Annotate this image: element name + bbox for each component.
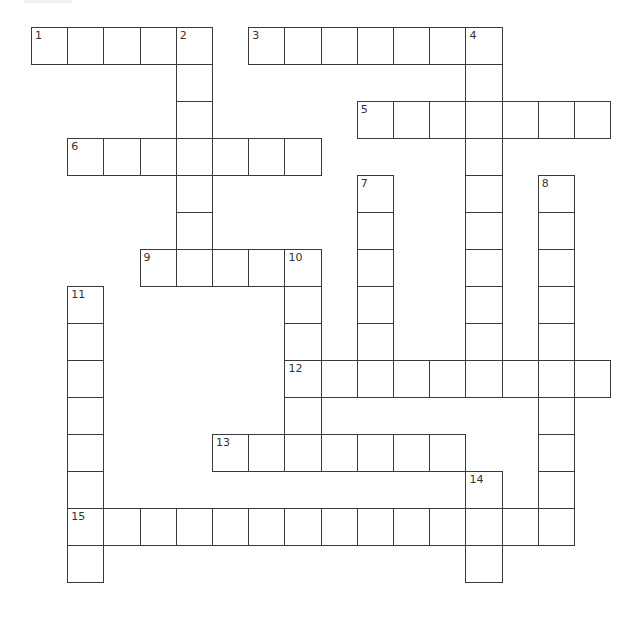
crossword-cell[interactable] [393, 101, 430, 139]
crossword-cell[interactable] [284, 508, 321, 546]
crossword-cell[interactable] [538, 471, 575, 509]
clue-number: 4 [469, 30, 476, 42]
crossword-cell[interactable] [357, 286, 394, 324]
crossword-cell[interactable]: 6 [67, 138, 104, 176]
crossword-cell[interactable] [465, 249, 502, 287]
crossword-cell[interactable] [538, 508, 575, 546]
crossword-cell[interactable]: 7 [357, 175, 394, 213]
clue-number: 14 [469, 474, 483, 486]
crossword-cell[interactable] [284, 138, 321, 176]
crossword-cell[interactable] [465, 101, 502, 139]
crossword-cell[interactable] [176, 101, 213, 139]
crossword-cell[interactable] [212, 249, 249, 287]
crossword-cell[interactable] [502, 360, 539, 398]
crossword-cell[interactable] [284, 397, 321, 435]
crossword-cell[interactable]: 8 [538, 175, 575, 213]
crossword-cell[interactable] [67, 323, 104, 361]
crossword-cell[interactable] [538, 434, 575, 472]
crossword-cell[interactable] [465, 360, 502, 398]
crossword-cell[interactable] [538, 101, 575, 139]
crossword-cell[interactable] [176, 138, 213, 176]
crossword-cell[interactable] [357, 249, 394, 287]
crossword-cell[interactable] [248, 434, 285, 472]
crossword-cell[interactable] [67, 471, 104, 509]
crossword-cell[interactable] [465, 175, 502, 213]
crossword-cell[interactable] [67, 545, 104, 583]
crossword-cell[interactable] [248, 138, 285, 176]
crossword-cell[interactable] [176, 212, 213, 250]
crossword-cell[interactable] [538, 397, 575, 435]
crossword-cell[interactable] [538, 323, 575, 361]
crossword-cell[interactable] [465, 286, 502, 324]
crossword-cell[interactable] [248, 249, 285, 287]
crossword-cell[interactable] [284, 286, 321, 324]
crossword-cell[interactable] [538, 286, 575, 324]
crossword-cell[interactable] [357, 434, 394, 472]
crossword-cell[interactable] [357, 508, 394, 546]
crossword-cell[interactable] [321, 360, 358, 398]
crossword-cell[interactable]: 3 [248, 27, 285, 65]
crossword-cell[interactable] [176, 175, 213, 213]
crossword-cell[interactable] [248, 508, 285, 546]
crossword-cell[interactable] [393, 360, 430, 398]
crossword-cell[interactable] [502, 101, 539, 139]
crossword-cell[interactable] [574, 360, 611, 398]
crossword-cell[interactable]: 2 [176, 27, 213, 65]
crossword-cell[interactable] [393, 434, 430, 472]
crossword-cell[interactable] [465, 323, 502, 361]
crossword-cell[interactable]: 4 [465, 27, 502, 65]
crossword-cell[interactable] [103, 138, 140, 176]
crossword-cell[interactable] [321, 508, 358, 546]
crossword-cell[interactable]: 1 [31, 27, 68, 65]
crossword-cell[interactable] [465, 545, 502, 583]
crossword-board: 123456789101211151314 [0, 0, 644, 618]
crossword-cell[interactable] [357, 212, 394, 250]
crossword-cell[interactable] [538, 360, 575, 398]
crossword-cell[interactable] [465, 64, 502, 102]
crossword-cell[interactable] [284, 323, 321, 361]
crossword-cell[interactable] [103, 508, 140, 546]
crossword-cell[interactable] [538, 249, 575, 287]
crossword-cell[interactable] [103, 27, 140, 65]
crossword-cell[interactable] [357, 27, 394, 65]
crossword-cell[interactable] [393, 508, 430, 546]
crossword-cell[interactable]: 9 [140, 249, 177, 287]
crossword-cell[interactable] [574, 101, 611, 139]
crossword-cell[interactable] [429, 360, 466, 398]
crossword-cell[interactable] [429, 434, 466, 472]
crossword-cell[interactable]: 15 [67, 508, 104, 546]
crossword-cell[interactable] [212, 508, 249, 546]
crossword-cell[interactable] [140, 508, 177, 546]
crossword-cell[interactable] [502, 508, 539, 546]
crossword-cell[interactable] [284, 434, 321, 472]
crossword-cell[interactable] [321, 434, 358, 472]
crossword-cell[interactable] [212, 138, 249, 176]
crossword-cell[interactable] [429, 508, 466, 546]
crossword-cell[interactable] [140, 138, 177, 176]
crossword-cell[interactable] [140, 27, 177, 65]
crossword-cell[interactable]: 5 [357, 101, 394, 139]
crossword-cell[interactable] [429, 27, 466, 65]
crossword-cell[interactable] [67, 434, 104, 472]
crossword-cell[interactable] [176, 508, 213, 546]
crossword-cell[interactable]: 14 [465, 471, 502, 509]
crossword-cell[interactable] [67, 360, 104, 398]
crossword-cell[interactable]: 13 [212, 434, 249, 472]
crossword-cell[interactable] [67, 397, 104, 435]
crossword-cell[interactable] [321, 27, 358, 65]
crossword-cell[interactable] [357, 360, 394, 398]
crossword-cell[interactable] [67, 27, 104, 65]
crossword-cell[interactable] [284, 27, 321, 65]
crossword-cell[interactable] [393, 27, 430, 65]
crossword-cell[interactable] [176, 249, 213, 287]
crossword-cell[interactable] [465, 138, 502, 176]
crossword-cell[interactable] [465, 212, 502, 250]
crossword-cell[interactable]: 12 [284, 360, 321, 398]
crossword-cell[interactable] [465, 508, 502, 546]
crossword-cell[interactable] [176, 64, 213, 102]
crossword-cell[interactable] [357, 323, 394, 361]
crossword-cell[interactable] [538, 212, 575, 250]
crossword-cell[interactable]: 10 [284, 249, 321, 287]
crossword-cell[interactable]: 11 [67, 286, 104, 324]
crossword-cell[interactable] [429, 101, 466, 139]
